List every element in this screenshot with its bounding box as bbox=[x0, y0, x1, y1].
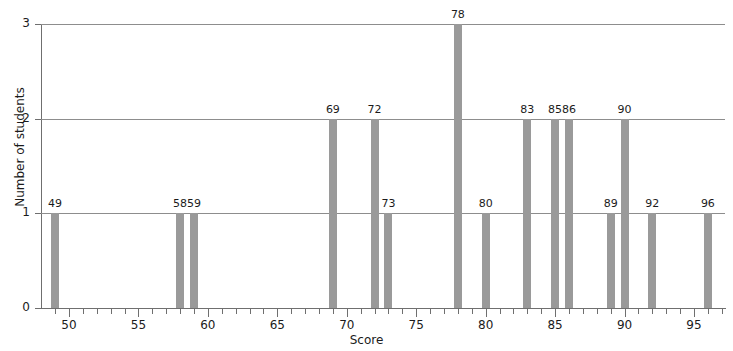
bar-value-label: 80 bbox=[471, 197, 501, 210]
x-tick-minor bbox=[652, 309, 653, 314]
x-tick-minor bbox=[319, 309, 320, 314]
gridline bbox=[41, 24, 725, 25]
x-tick-major bbox=[694, 309, 695, 317]
x-tick-minor bbox=[722, 309, 723, 314]
bar-value-label: 83 bbox=[512, 103, 542, 116]
x-tick-minor bbox=[583, 309, 584, 314]
x-tick-minor bbox=[125, 309, 126, 314]
x-tick-minor bbox=[333, 309, 334, 314]
x-tick-major bbox=[208, 309, 209, 317]
x-tick-minor bbox=[291, 309, 292, 314]
y-axis-title: Number of students bbox=[13, 67, 27, 227]
x-tick-minor bbox=[680, 309, 681, 314]
x-tick-minor bbox=[194, 309, 195, 314]
bar bbox=[51, 213, 59, 308]
x-tick-label: 75 bbox=[396, 318, 436, 332]
x-tick-minor bbox=[152, 309, 153, 314]
x-tick-minor bbox=[236, 309, 237, 314]
x-axis-title: Score bbox=[0, 333, 733, 347]
x-tick-minor bbox=[305, 309, 306, 314]
x-tick-minor bbox=[541, 309, 542, 314]
x-tick-label: 55 bbox=[118, 318, 158, 332]
x-tick-minor bbox=[250, 309, 251, 314]
x-tick-minor bbox=[111, 309, 112, 314]
x-tick-minor bbox=[458, 309, 459, 314]
x-tick-minor bbox=[55, 309, 56, 314]
x-tick-major bbox=[277, 309, 278, 317]
x-tick-label: 65 bbox=[257, 318, 297, 332]
x-tick-major bbox=[416, 309, 417, 317]
x-tick-label: 80 bbox=[466, 318, 506, 332]
y-tick-label: 0 bbox=[0, 300, 30, 314]
x-tick-minor bbox=[611, 309, 612, 314]
x-tick-minor bbox=[402, 309, 403, 314]
x-tick-major bbox=[486, 309, 487, 317]
bar-value-label: 90 bbox=[610, 103, 640, 116]
bar bbox=[607, 213, 615, 308]
bar bbox=[648, 213, 656, 308]
x-tick-label: 70 bbox=[327, 318, 367, 332]
x-tick-label: 90 bbox=[605, 318, 645, 332]
x-tick-minor bbox=[222, 309, 223, 314]
x-tick-label: 95 bbox=[674, 318, 714, 332]
x-tick-minor bbox=[569, 309, 570, 314]
bar-value-label: 92 bbox=[637, 197, 667, 210]
x-tick-major bbox=[138, 309, 139, 317]
x-tick-minor bbox=[361, 309, 362, 314]
bar bbox=[621, 119, 629, 308]
bar-value-label: 96 bbox=[693, 197, 723, 210]
x-tick-minor bbox=[430, 309, 431, 314]
bar-value-label: 78 bbox=[443, 8, 473, 21]
bar-value-label: 89 bbox=[596, 197, 626, 210]
x-tick-major bbox=[69, 309, 70, 317]
x-tick-minor bbox=[513, 309, 514, 314]
x-axis-line bbox=[41, 308, 726, 309]
bar-value-label: 72 bbox=[360, 103, 390, 116]
bar bbox=[384, 213, 392, 308]
x-tick-minor bbox=[444, 309, 445, 314]
x-tick-minor bbox=[375, 309, 376, 314]
x-tick-minor bbox=[638, 309, 639, 314]
bar-value-label: 86 bbox=[554, 103, 584, 116]
x-tick-minor bbox=[83, 309, 84, 314]
x-tick-minor bbox=[708, 309, 709, 314]
bar-value-label: 49 bbox=[40, 197, 70, 210]
bar bbox=[482, 213, 490, 308]
x-tick-label: 50 bbox=[49, 318, 89, 332]
x-tick-minor bbox=[166, 309, 167, 314]
bar bbox=[454, 24, 462, 308]
x-tick-minor bbox=[180, 309, 181, 314]
bar-value-label: 69 bbox=[318, 103, 348, 116]
bar-value-label: 59 bbox=[179, 197, 209, 210]
x-tick-minor bbox=[666, 309, 667, 314]
x-tick-label: 85 bbox=[535, 318, 575, 332]
bar-value-label: 73 bbox=[373, 197, 403, 210]
bar bbox=[523, 119, 531, 308]
x-tick-label: 60 bbox=[188, 318, 228, 332]
bar bbox=[329, 119, 337, 308]
x-tick-minor bbox=[500, 309, 501, 314]
x-tick-minor bbox=[472, 309, 473, 314]
bar bbox=[565, 119, 573, 308]
bar bbox=[704, 213, 712, 308]
y-tick-mark bbox=[35, 308, 41, 309]
bar-chart: 0123 50556065707580859095 49585969727378… bbox=[0, 0, 733, 351]
bar bbox=[371, 119, 379, 308]
bar bbox=[190, 213, 198, 308]
x-tick-minor bbox=[97, 309, 98, 314]
x-tick-major bbox=[347, 309, 348, 317]
x-tick-minor bbox=[388, 309, 389, 314]
x-tick-minor bbox=[527, 309, 528, 314]
x-tick-minor bbox=[597, 309, 598, 314]
x-tick-minor bbox=[263, 309, 264, 314]
y-tick-label: 3 bbox=[0, 16, 30, 30]
x-tick-major bbox=[555, 309, 556, 317]
plot-area bbox=[41, 24, 725, 308]
x-tick-major bbox=[625, 309, 626, 317]
bar bbox=[176, 213, 184, 308]
bar bbox=[551, 119, 559, 308]
